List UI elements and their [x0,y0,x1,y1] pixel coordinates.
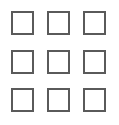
grid-square-icon [47,11,70,35]
grid-square-icon [11,50,34,74]
grid-square-icon [11,11,34,35]
grid-square-icon [83,88,106,112]
grid-square-icon [47,88,70,112]
grid-square-icon [47,50,70,74]
grid-square-icon [11,88,34,112]
grid-square-icon [83,11,106,35]
grid-square-icon [83,50,106,74]
